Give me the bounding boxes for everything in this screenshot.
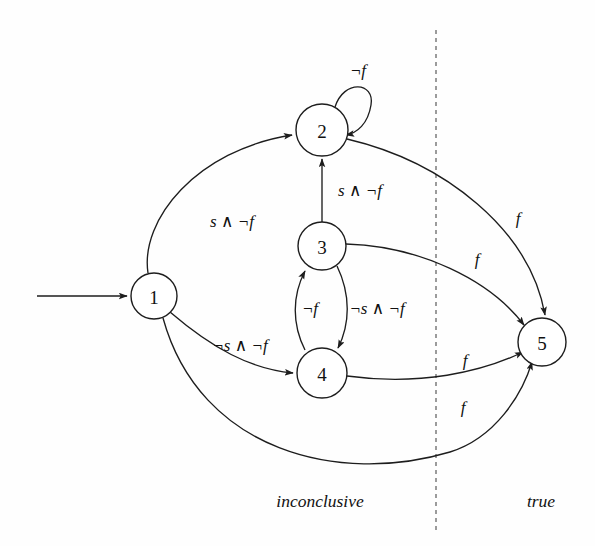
state-node-2[interactable]: 2 xyxy=(296,104,348,156)
state-node-3[interactable]: 3 xyxy=(298,222,346,270)
state-node-5[interactable]: 5 xyxy=(518,318,566,366)
edge-label-3-to-2: s ∧ ¬f xyxy=(338,181,384,200)
state-label-1: 1 xyxy=(149,287,159,308)
edge-label-2-self-loop: ¬f xyxy=(350,61,368,80)
edge-label-1-to-2: s ∧ ¬f xyxy=(210,212,256,231)
edge-label-1-to-5: f xyxy=(461,398,468,417)
state-label-5: 5 xyxy=(537,333,547,354)
edge-label-4-to-3: ¬f xyxy=(302,299,320,318)
edge-1-to-2 xyxy=(147,135,292,273)
region-label-true: true xyxy=(527,491,555,511)
state-label-3: 3 xyxy=(317,237,327,258)
edge-label-3-to-5: f xyxy=(475,250,482,269)
state-label-4: 4 xyxy=(317,364,327,385)
edge-4-to-5 xyxy=(347,352,523,379)
edge-label-1-to-4: ¬s ∧ ¬f xyxy=(212,336,270,355)
diagram-canvas: 1 2 3 4 5 s ∧ ¬f ¬s ∧ ¬f f ¬f f s ∧ ¬f ¬… xyxy=(0,0,595,546)
edge-label-4-to-5: f xyxy=(463,351,470,370)
region-label-inconclusive: inconclusive xyxy=(276,491,364,511)
state-node-1[interactable]: 1 xyxy=(131,273,177,319)
edge-label-3-to-4: ¬s ∧ ¬f xyxy=(349,299,407,318)
state-node-4[interactable]: 4 xyxy=(297,348,347,398)
edge-label-2-to-5: f xyxy=(516,209,523,228)
state-machine-diagram: 1 2 3 4 5 s ∧ ¬f ¬s ∧ ¬f f ¬f f s ∧ ¬f ¬… xyxy=(0,0,595,546)
edge-3-to-4 xyxy=(337,266,347,348)
state-label-2: 2 xyxy=(317,121,327,142)
